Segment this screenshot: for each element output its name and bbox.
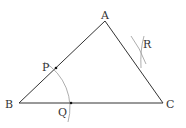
triangle-diagram: A B C P Q R xyxy=(0,0,186,128)
label-A: A xyxy=(100,9,110,22)
label-C: C xyxy=(166,98,174,111)
label-P: P xyxy=(42,61,50,74)
label-R: R xyxy=(143,38,152,51)
label-B: B xyxy=(5,98,13,111)
edge-AC xyxy=(105,21,163,103)
point-Q xyxy=(70,102,73,105)
edge-AB xyxy=(19,21,105,103)
point-P xyxy=(55,67,58,70)
label-Q: Q xyxy=(58,106,67,119)
